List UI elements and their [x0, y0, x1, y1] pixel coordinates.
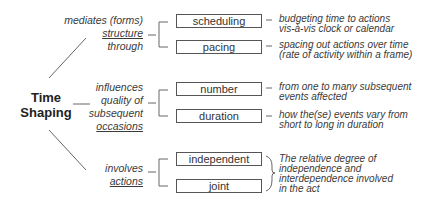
description-line: vis-à-vis clock or calendar: [279, 24, 394, 34]
box-scheduling: scheduling: [176, 14, 262, 28]
description-line: (rate of activity within a frame): [279, 50, 412, 60]
description-line: short to long in duration: [279, 120, 408, 130]
branch-label-line: subsequent: [3, 107, 143, 120]
description-pacing: spacing out actions over time (rate of a…: [279, 40, 412, 60]
branch-label-line: quality of: [3, 94, 143, 107]
description-line: in the act: [279, 184, 393, 194]
branch-label-line: influences: [3, 81, 143, 94]
branch-label-keyword: structure: [102, 27, 143, 39]
branch-label-occasions: influences quality of subsequent occasio…: [3, 81, 143, 133]
branch-label-structure: mediates (forms) structure through: [3, 14, 143, 53]
box-number: number: [176, 82, 262, 96]
branch-label-keyword: actions: [110, 175, 143, 187]
box-independent: independent: [176, 152, 262, 166]
branch-label-line: involves: [3, 162, 143, 175]
branch-label-actions: involves actions: [3, 162, 143, 188]
description-number: from one to many subsequent events affec…: [279, 82, 411, 102]
branch-label-line: mediates (forms): [3, 14, 143, 27]
branch-label-line: through: [3, 40, 143, 53]
branch-label-keyword: occasions: [96, 120, 143, 132]
description-shared-actions: The relative degree of independence and …: [279, 154, 393, 194]
description-scheduling: budgeting time to actions vis-à-vis cloc…: [279, 14, 394, 34]
box-joint: joint: [176, 179, 262, 193]
description-duration: how the(se) events vary from short to lo…: [279, 110, 408, 130]
box-duration: duration: [176, 109, 262, 123]
box-pacing: pacing: [176, 40, 262, 54]
description-line: events affected: [279, 92, 411, 102]
